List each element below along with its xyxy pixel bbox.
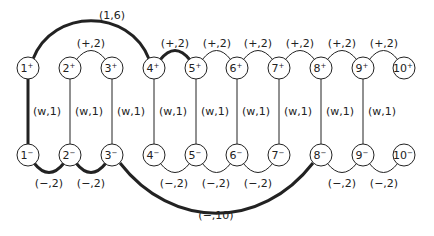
edge-8+-9+	[327, 51, 357, 61]
edge-8--9-	[327, 163, 357, 173]
node-3-: 3−	[101, 144, 123, 166]
node-2+: 2+	[59, 57, 81, 79]
node-8+: 8+	[310, 57, 332, 79]
node-10-: 10−	[393, 144, 415, 166]
edge-label: (+,2)	[244, 37, 272, 50]
edge-7+-8+	[285, 51, 315, 61]
edge-5+-6+	[202, 51, 231, 61]
node-6+: 6+	[226, 57, 248, 79]
edge-label: (−,2)	[370, 177, 398, 190]
edge-label: (w,1)	[284, 105, 312, 118]
edge-label: (w,1)	[368, 105, 396, 118]
graph-diagram: (1,6)(+,2)(+,2)(+,2)(+,2)(+,2)(+,2)(+,2)…	[0, 0, 434, 236]
node-10+: 10+	[393, 57, 415, 79]
edge-label: (+,2)	[77, 37, 105, 50]
edge-5--6-	[202, 163, 231, 173]
edge-label: (w,1)	[242, 105, 270, 118]
node-4+: 4+	[143, 57, 165, 79]
node-5-: 5−	[185, 144, 207, 166]
node-6-: 6−	[226, 144, 248, 166]
edge-label: (w,1)	[201, 105, 229, 118]
edge-label: (−,2)	[202, 177, 230, 190]
edge-4--5-	[160, 163, 190, 173]
node-2-: 2−	[59, 144, 81, 166]
edge-labels: (1,6)(+,2)(+,2)(+,2)(+,2)(+,2)(+,2)(+,2)…	[33, 9, 398, 222]
edge-label: (+,2)	[286, 37, 314, 50]
node-3+: 3+	[101, 57, 123, 79]
edge-1--2-	[34, 163, 64, 173]
edge-label: (+,2)	[328, 37, 356, 50]
node-7-: 7−	[268, 144, 290, 166]
edge-label: (w,1)	[75, 105, 103, 118]
edge-4+-5+	[160, 51, 190, 61]
edge-9+-10+	[369, 51, 398, 61]
edge-label: (−,2)	[160, 177, 188, 190]
edge-label: (w,1)	[117, 105, 145, 118]
node-9-: 9−	[352, 144, 374, 166]
edge-label: (+,2)	[161, 37, 189, 50]
edge-6--7-	[243, 163, 273, 173]
edge-label: (−,2)	[244, 177, 272, 190]
edge-label: (−,2)	[77, 177, 105, 190]
edge-9--10-	[369, 163, 398, 173]
edge-label: (w,1)	[33, 105, 61, 118]
edge-label: (−,10)	[198, 209, 233, 222]
edge-6+-7+	[243, 51, 273, 61]
edge-label: (−,2)	[328, 177, 356, 190]
node-1+: 1+	[17, 57, 39, 79]
node-9+: 9+	[352, 57, 374, 79]
edge-2+-3+	[76, 51, 106, 61]
edge-label: (w,1)	[326, 105, 354, 118]
edge-label: (−,2)	[35, 177, 63, 190]
edge-label: (1,6)	[99, 9, 125, 22]
node-5+: 5+	[185, 57, 207, 79]
edge-label: (w,1)	[159, 105, 187, 118]
edge-label: (+,2)	[370, 37, 398, 50]
node-4-: 4−	[143, 144, 165, 166]
node-7+: 7+	[268, 57, 290, 79]
node-1-: 1−	[17, 144, 39, 166]
edge-label: (+,2)	[203, 37, 231, 50]
edge-2--3-	[76, 163, 106, 173]
graph-canvas: (1,6)(+,2)(+,2)(+,2)(+,2)(+,2)(+,2)(+,2)…	[0, 0, 434, 236]
node-8-: 8−	[310, 144, 332, 166]
